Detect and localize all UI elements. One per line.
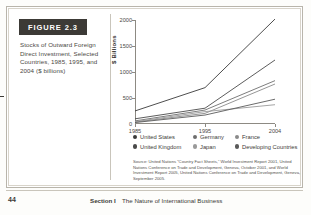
- textbook-page: FIGURE 2.3 Stocks of Outward Foreign Dir…: [0, 0, 311, 215]
- legend-label: Germany: [200, 134, 224, 140]
- legend-color-dot: [235, 144, 239, 148]
- y-tick-label: 0: [129, 121, 132, 127]
- figure-caption-text: Stocks of Outward Foreign Direct Investm…: [20, 41, 102, 75]
- legend-item: United Kingdom: [133, 144, 185, 150]
- chart-series-lines: [135, 20, 275, 124]
- legend-label: France: [242, 134, 260, 140]
- legend-label: Japan: [200, 144, 216, 150]
- footer-section-label: Section I: [90, 197, 116, 204]
- legend-color-dot: [193, 144, 197, 148]
- legend-color-dot: [133, 144, 137, 148]
- x-tick-mark: [275, 124, 276, 127]
- chart-legend: United StatesGermanyFrance United Kingdo…: [133, 134, 303, 153]
- y-tick-label: 1500: [120, 43, 132, 49]
- plot-area: 0500100015002000 198519952004: [135, 20, 275, 124]
- legend-color-dot: [235, 135, 239, 139]
- page-edge-marker: [0, 96, 4, 97]
- legend-label: United States: [140, 134, 175, 140]
- legend-label: Developing Countries: [242, 144, 297, 150]
- legend-item: United States: [133, 134, 185, 140]
- legend-color-dot: [193, 135, 197, 139]
- figure-number-badge: FIGURE 2.3: [19, 19, 87, 35]
- x-tick-mark: [205, 124, 206, 127]
- legend-item: Germany: [193, 134, 227, 140]
- footer-divider: [6, 190, 303, 191]
- page-number: 44: [8, 196, 16, 203]
- chart-column: $ Billions 0500100015002000 198519952004…: [113, 12, 303, 184]
- legend-item: Developing Countries: [235, 144, 297, 150]
- figure-source-note: Source: United Nations “Country Fact She…: [133, 159, 305, 181]
- legend-item: Japan: [193, 144, 227, 150]
- y-axis-label: $ Billions: [111, 35, 117, 64]
- legend-color-dot: [133, 135, 137, 139]
- x-tick-mark: [135, 124, 136, 127]
- page-footer: 44 Section I The Nature of International…: [6, 190, 303, 209]
- footer-section-title: The Nature of International Business: [122, 197, 222, 204]
- y-tick-label: 1000: [120, 69, 132, 75]
- figure-container: FIGURE 2.3 Stocks of Outward Foreign Dir…: [6, 6, 303, 188]
- legend-item: France: [235, 134, 260, 140]
- y-tick-label: 2000: [120, 17, 132, 23]
- y-tick-label: 500: [123, 95, 132, 101]
- legend-label: United Kingdom: [140, 144, 181, 150]
- figure-caption-column: FIGURE 2.3 Stocks of Outward Foreign Dir…: [15, 14, 111, 180]
- legend-row: United StatesGermanyFrance: [133, 134, 303, 140]
- series-line: [135, 19, 275, 111]
- legend-row: United KingdomJapanDeveloping Countries: [133, 144, 303, 150]
